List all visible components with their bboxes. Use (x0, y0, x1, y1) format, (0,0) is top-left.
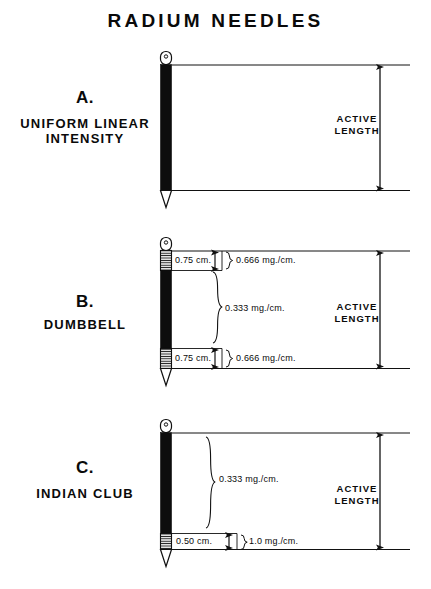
panel-b-segment-3-dose: 0.666 mg./cm. (236, 353, 296, 363)
active-length-line2: LENGTH (334, 495, 379, 506)
panel-c-active-length-label: ACTIVE LENGTH (322, 483, 392, 507)
panel-b-letter: B. (0, 292, 170, 312)
panel-a-letter: A. (0, 88, 170, 108)
panel-c-segment-1-dose: 0.333 mg./cm. (219, 474, 279, 484)
panel-b-segment-3-length: 0.75 cm. (175, 353, 211, 363)
panel-c-segment-2-length: 0.50 cm. (176, 536, 212, 546)
panel-c-name: INDIAN CLUB (0, 486, 170, 501)
panel-b-active-length-label: ACTIVE LENGTH (322, 301, 392, 325)
panel-a-name: UNIFORM LINEAR INTENSITY (0, 116, 170, 146)
radium-needles-figure: RADIUM NEEDLES (0, 0, 431, 589)
panel-b-segment-1-dose: 0.666 mg./cm. (236, 255, 296, 265)
panel-c-letter: C. (0, 458, 170, 478)
active-length-line1: ACTIVE (337, 301, 378, 312)
active-length-line1: ACTIVE (337, 113, 378, 124)
panel-b-segment-2-dose: 0.333 mg./cm. (225, 303, 285, 313)
active-length-line2: LENGTH (334, 313, 379, 324)
active-length-line1: ACTIVE (337, 483, 378, 494)
panel-c-segment-2-dose: 1.0 mg./cm. (249, 536, 298, 546)
panel-b-segment-1-length: 0.75 cm. (175, 255, 211, 265)
active-length-line2: LENGTH (334, 125, 379, 136)
panel-a-active-length-label: ACTIVE LENGTH (322, 113, 392, 137)
panel-b-name: DUMBBELL (0, 317, 170, 332)
